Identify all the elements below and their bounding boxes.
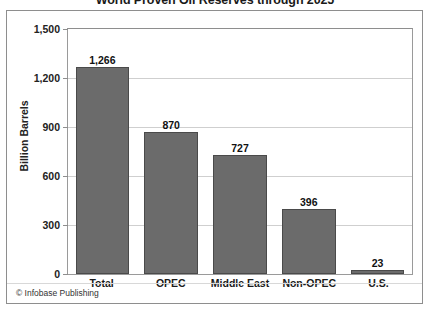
figure-frame: Billion Barrels 03006009001,2001,500 1,2… [6,10,423,304]
bar[interactable]: 870 [144,132,198,274]
x-axis-category-label: Middle East [205,277,274,297]
y-tick-mark [63,274,68,275]
bar-slot: 727 [206,29,275,274]
publisher-credit: © Infobase Publishing [16,288,99,298]
y-tick-label: 300 [42,219,60,231]
x-axis-categories: TotalOPECMiddle EastNon-OPECU.S. [67,277,413,297]
bar-value-label: 1,266 [89,54,115,66]
x-axis-category-label: Non-OPEC [275,277,344,297]
bar-slot: 23 [343,29,412,274]
bar-slot: 396 [274,29,343,274]
bar-value-label: 396 [300,196,318,208]
bar[interactable]: 727 [213,155,267,274]
y-tick-label: 1,500 [34,23,60,35]
x-axis-category-label: U.S. [344,277,413,297]
bar-value-label: 727 [231,142,249,154]
y-tick-label: 1,200 [34,72,60,84]
bar[interactable]: 23 [351,270,405,274]
bar-slot: 870 [137,29,206,274]
bar-value-label: 870 [162,119,180,131]
bar-slot: 1,266 [68,29,137,274]
y-tick-label: 900 [42,121,60,133]
plot-area: 03006009001,2001,500 1,26687072739623 [67,28,413,275]
y-tick-label: 0 [54,268,60,280]
bar[interactable]: 396 [282,209,336,274]
bars-layer: 1,26687072739623 [68,29,412,274]
chart-title: World Proven Oil Reserves through 2025 [0,0,430,7]
x-axis-category-label: OPEC [136,277,205,297]
bar-value-label: 23 [372,257,384,269]
bar[interactable]: 1,266 [76,67,130,274]
footer-divider [7,283,422,284]
y-tick-label: 600 [42,170,60,182]
y-axis-title: Billion Barrels [18,86,32,186]
